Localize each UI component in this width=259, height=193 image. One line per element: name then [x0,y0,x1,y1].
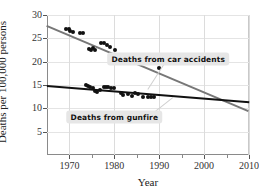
x-tick-label: 2000 [194,161,214,171]
y-gridline [47,15,249,16]
x-tick [249,155,250,159]
x-tick-minor [92,155,93,158]
y-tick-label: 5 [37,127,42,137]
data-point [152,95,156,99]
x-tick-minor [182,155,183,158]
x-gridline [204,15,205,155]
x-tick-label: 1980 [104,161,124,171]
y-tick-label: 30 [32,10,42,20]
y-axis-label: Deaths per 100,000 persons [0,21,8,143]
x-tick-label: 2010 [239,161,259,171]
y-tick [43,132,47,133]
data-point [136,92,140,96]
data-point [108,45,112,49]
chart-figure: Deaths per 100,000 persons Year 51015202… [0,0,259,193]
y-tick-label: 15 [32,80,42,90]
y-tick-label: 25 [32,33,42,43]
y-tick [43,38,47,39]
x-gridline [249,15,250,155]
x-gridline [159,15,160,155]
x-tick [114,155,115,159]
data-point [93,48,97,52]
x-axis-label: Year [138,176,158,188]
data-point [141,95,145,99]
y-tick [43,62,47,63]
data-point [112,86,116,90]
y-tick [43,108,47,109]
data-point [121,93,125,97]
y-tick-label: 20 [32,57,42,67]
x-tick-minor [137,155,138,158]
y-gridline [47,132,249,133]
y-tick-label: 10 [32,103,42,113]
x-tick-label: 1970 [59,161,79,171]
data-point [71,30,75,34]
y-tick [43,15,47,16]
x-tick [204,155,205,159]
x-tick [159,155,160,159]
plot-area: 5101520253019701980199020002010Deaths fr… [47,15,249,155]
data-point [126,92,130,96]
car-accidents-label: Deaths from car accidents [107,52,229,65]
data-point [81,31,85,35]
gunfire-label: Deaths from gunfire [67,110,162,123]
x-tick [69,155,70,159]
y-gridline [47,108,249,109]
x-tick-label: 1990 [149,161,169,171]
x-tick-minor [227,155,228,158]
